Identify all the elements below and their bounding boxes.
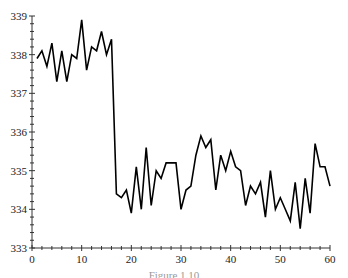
x-tick-label: 20 xyxy=(126,253,138,265)
y-tick-label: 339 xyxy=(11,10,28,22)
y-tick-label: 336 xyxy=(11,126,28,138)
line-chart: 3333343353363373383390102030405060 xyxy=(0,0,348,268)
x-tick-label: 0 xyxy=(29,253,35,265)
x-tick-label: 10 xyxy=(76,253,88,265)
y-tick-label: 338 xyxy=(11,49,28,61)
y-tick-label: 335 xyxy=(11,165,28,177)
x-tick-label: 60 xyxy=(325,253,337,265)
x-tick-label: 50 xyxy=(275,253,287,265)
y-tick-label: 337 xyxy=(11,87,28,99)
y-tick-label: 333 xyxy=(11,242,28,254)
y-tick-label: 334 xyxy=(11,203,28,215)
data-line xyxy=(37,20,330,229)
axes: 3333343353363373383390102030405060 xyxy=(11,10,337,265)
x-tick-label: 30 xyxy=(176,253,188,265)
x-tick-label: 40 xyxy=(225,253,237,265)
figure-caption: Figure 1.10 xyxy=(0,268,348,278)
